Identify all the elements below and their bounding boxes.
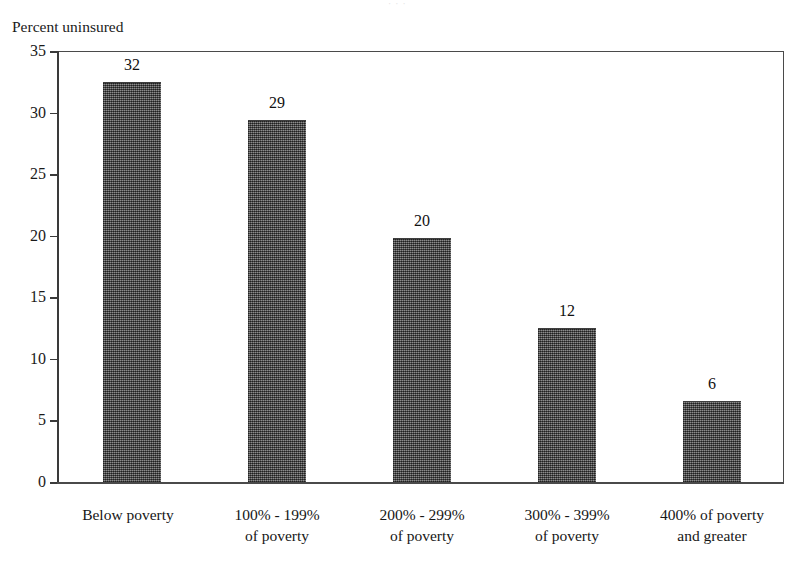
y-tick-label-35: 35 bbox=[6, 43, 46, 59]
y-tick-label-5: 5 bbox=[6, 412, 46, 428]
y-axis-title: Percent uninsured bbox=[12, 18, 123, 36]
y-tick-label-30: 30 bbox=[6, 104, 46, 120]
x-axis-label-line2: and greater bbox=[612, 525, 794, 546]
plot-frame-right-line bbox=[783, 51, 784, 484]
x-axis-label-line1: 400% of poverty bbox=[660, 506, 764, 523]
bar-value-label-3: 12 bbox=[559, 302, 575, 320]
x-axis-label-400-and-greater: 400% of poverty and greater bbox=[612, 504, 794, 546]
bar-value-label-0: 32 bbox=[124, 56, 140, 74]
bar-400-poverty-and-greater[interactable]: 6 bbox=[683, 401, 741, 482]
y-tick-label-20: 20 bbox=[6, 227, 46, 243]
bar-value-label-4: 6 bbox=[708, 375, 716, 393]
x-axis-label-line1: Below poverty bbox=[82, 506, 174, 523]
x-axis-label-line1: 300% - 399% bbox=[524, 506, 609, 523]
scan-edge-artifact: · · · bbox=[0, 0, 794, 6]
plot-frame-top-line bbox=[57, 51, 784, 52]
bar-300-399-poverty[interactable]: 12 bbox=[538, 328, 596, 482]
y-tick-label-0: 0 bbox=[6, 474, 46, 490]
bar-100-199-poverty[interactable]: 29 bbox=[248, 120, 306, 482]
plot-area: 35 30 25 20 15 10 5 0 bbox=[57, 51, 784, 484]
x-axis-label-line1: 200% - 299% bbox=[379, 506, 464, 523]
x-axis-label-line1: 100% - 199% bbox=[234, 506, 319, 523]
y-tick-label-15: 15 bbox=[6, 289, 46, 305]
y-tick-label-25: 25 bbox=[6, 166, 46, 182]
bar-value-label-1: 29 bbox=[269, 94, 285, 112]
bar-200-299-poverty[interactable]: 20 bbox=[393, 238, 451, 482]
bar-below-poverty[interactable]: 32 bbox=[103, 82, 161, 482]
bar-value-label-2: 20 bbox=[414, 212, 430, 230]
bar-chart: · · · Percent uninsured 35 30 25 20 15 bbox=[0, 0, 794, 566]
x-axis-line bbox=[57, 482, 784, 484]
y-axis-line bbox=[57, 51, 59, 484]
y-tick-label-10: 10 bbox=[6, 351, 46, 367]
